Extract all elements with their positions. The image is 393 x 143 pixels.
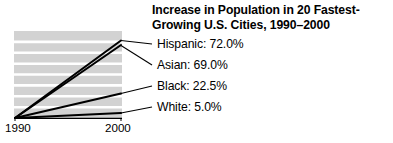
population-increase-chart-figure: Increase in Population in 20 Fastest- Gr… [0, 0, 393, 143]
x-axis-tick-label-2000: 2000 [105, 121, 131, 134]
leader-line-white [121, 107, 152, 113]
leader-line-asian [121, 46, 152, 66]
series-label-asian: Asian: 69.0% [157, 58, 228, 72]
series-label-black: Black: 22.5% [157, 79, 227, 93]
series-label-white: White: 5.0% [157, 100, 222, 114]
leader-line-black [121, 86, 152, 94]
x-axis-tick-label-1990: 1990 [5, 121, 31, 134]
series-label-hispanic: Hispanic: 72.0% [157, 37, 244, 51]
leader-line-hispanic [121, 41, 152, 45]
leader-lines [121, 41, 152, 114]
